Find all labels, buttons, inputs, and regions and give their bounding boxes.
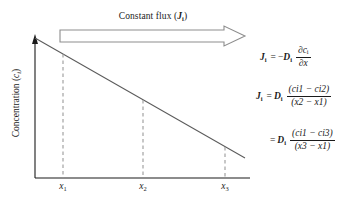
eq1-relation: = bbox=[271, 52, 276, 62]
eq2-lhs-subscript: i bbox=[261, 95, 263, 102]
equation-flux-x1-x3: = Di (ci1 − ci3) (x3 − x1) bbox=[246, 118, 362, 162]
eq2-denominator: (x2 − x1) bbox=[289, 97, 328, 109]
eq3-denominator: (x3 − x1) bbox=[293, 141, 332, 153]
x-tick-subscript-1: 1 bbox=[63, 185, 66, 192]
x-tick-label-2: x2 bbox=[130, 181, 156, 191]
eq2-numerator: (ci1 − ci2) bbox=[287, 84, 332, 97]
x-tick-label-1: x1 bbox=[50, 181, 76, 191]
eq1-fraction: ∂ci ∂x bbox=[296, 45, 311, 70]
constant-flux-arrow bbox=[60, 26, 245, 46]
equation-ficks-first-law: Ji = − Di ∂ci ∂x bbox=[246, 40, 362, 74]
eq1-denominator: ∂x bbox=[297, 58, 310, 70]
eq2-coefficient-subscript: i bbox=[281, 95, 283, 102]
y-axis-label-symbol: c bbox=[11, 74, 21, 78]
x-tick-subscript-3: 3 bbox=[225, 185, 228, 192]
eq1-lhs: Ji bbox=[260, 52, 267, 62]
flux-label-subscript: i bbox=[182, 15, 184, 22]
x-tick-label-3: x3 bbox=[212, 181, 238, 191]
y-axis-label-subscript: i bbox=[15, 72, 22, 74]
constant-flux-label: Constant flux (Ji) bbox=[78, 11, 228, 21]
eq2-relation: = bbox=[267, 91, 272, 101]
eq1-numerator-subscript: i bbox=[307, 48, 309, 55]
x-tick-subscript-2: 2 bbox=[143, 185, 146, 192]
eq1-coefficient-subscript: i bbox=[290, 56, 292, 63]
concentration-profile-line bbox=[35, 38, 245, 158]
eq3-fraction: (ci1 − ci3) (x3 − x1) bbox=[290, 128, 335, 153]
y-axis-label: Concentration (ci) bbox=[11, 43, 21, 163]
eq2-coefficient-symbol: D bbox=[274, 91, 281, 101]
flux-label-close: ) bbox=[184, 11, 187, 21]
eq3-numerator: (ci1 − ci3) bbox=[290, 128, 335, 141]
eq1-numerator: ∂ci bbox=[296, 45, 311, 58]
eq2-lhs: Ji bbox=[256, 91, 263, 101]
eq1-lhs-subscript: i bbox=[265, 56, 267, 63]
diffusion-flux-diagram: Constant flux (Ji) Concentration (ci) x1… bbox=[0, 0, 362, 209]
y-axis-label-prefix: Concentration ( bbox=[11, 78, 21, 137]
eq3-coefficient-subscript: i bbox=[284, 139, 286, 146]
eq1-numerator-text: ∂c bbox=[298, 45, 307, 55]
equation-flux-x1-x2: Ji = Di (ci1 − ci2) (x2 − x1) bbox=[246, 74, 362, 118]
flux-label-text: Constant flux ( bbox=[119, 11, 178, 21]
eq2-fraction: (ci1 − ci2) (x2 − x1) bbox=[287, 84, 332, 109]
eq3-relation: = bbox=[270, 135, 275, 145]
eq2-coefficient: Di bbox=[274, 91, 283, 101]
eq3-coefficient: Di bbox=[277, 135, 286, 145]
equation-list: Ji = − Di ∂ci ∂x Ji = Di (ci1 − ci2) (x2… bbox=[246, 40, 362, 162]
eq1-coefficient: Di bbox=[283, 52, 292, 62]
